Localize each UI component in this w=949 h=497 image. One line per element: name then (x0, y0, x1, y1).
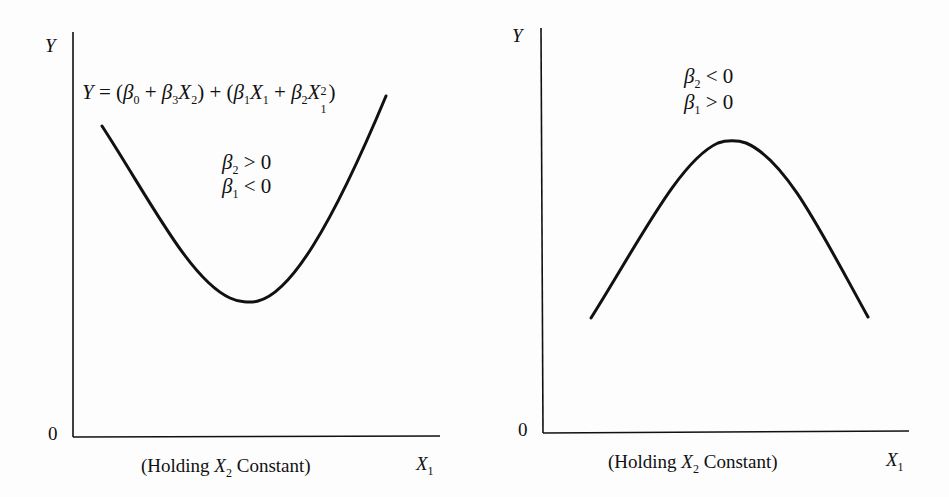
eq-beta3: β (162, 80, 172, 104)
eq-lhs: Y (82, 80, 94, 104)
right-inverted-u-curve (591, 141, 868, 318)
left-condition-beta1: β1 < 0 (222, 176, 271, 200)
eq-x2: X (178, 80, 191, 104)
eq-close: ) (328, 80, 335, 104)
left-x-axis-caption: (Holding X2 Constant) (141, 456, 311, 479)
caption-text-end: Constant) (232, 455, 311, 476)
x-var: X (416, 453, 428, 474)
left-condition-beta2: β2 > 0 (222, 152, 271, 176)
left-x-axis-label: X1 (416, 454, 434, 477)
beta-symbol: β (684, 64, 694, 88)
inequality: > 0 (700, 90, 733, 114)
x-sub: 1 (898, 460, 904, 474)
beta-symbol: β (222, 174, 232, 198)
eq-x1-squared-sub: 1 (320, 103, 326, 115)
x-sub: 1 (428, 464, 434, 478)
eq-x1-squared-exp: 2 (320, 85, 326, 97)
beta-symbol: β (684, 90, 694, 114)
right-y-axis (541, 28, 543, 433)
right-x-axis-caption: (Holding X2 Constant) (608, 452, 778, 475)
right-origin-label: 0 (518, 420, 528, 439)
caption-var: X (214, 455, 226, 476)
inequality: < 0 (238, 174, 271, 198)
caption-text: (Holding (141, 455, 214, 476)
eq-beta0: β (123, 80, 133, 104)
right-x-axis-label: X1 (886, 450, 904, 473)
left-origin-label: 0 (48, 424, 58, 443)
right-y-axis-label: Y (512, 26, 523, 45)
diagram-canvas (0, 0, 949, 497)
x-var: X (886, 449, 898, 470)
eq-x1: X (250, 80, 263, 104)
left-x-axis (73, 436, 440, 437)
eq-plus-2: + (269, 80, 291, 104)
inequality: < 0 (700, 64, 733, 88)
regression-equation: Y = (β0 + β3X2) + (β1X1 + β2X21) (82, 82, 335, 106)
beta-symbol: β (222, 150, 232, 174)
inequality: > 0 (238, 150, 271, 174)
right-condition-beta2: β2 < 0 (684, 66, 733, 90)
caption-text: (Holding (608, 451, 681, 472)
right-condition-beta1: β1 > 0 (684, 92, 733, 116)
left-y-axis-label: Y (45, 36, 56, 55)
eq-sign: = ( (94, 80, 123, 104)
eq-mid: ) + ( (197, 80, 233, 104)
caption-text-end: Constant) (699, 451, 778, 472)
eq-x1-squared: X (308, 80, 321, 104)
right-x-axis (543, 431, 909, 433)
eq-beta2: β (291, 80, 301, 104)
eq-beta1: β (233, 80, 243, 104)
caption-var: X (681, 451, 693, 472)
eq-plus: + (140, 80, 162, 104)
